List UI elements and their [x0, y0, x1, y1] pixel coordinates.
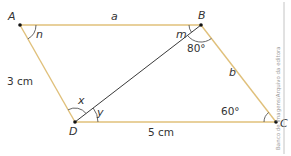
angle-label-x: x: [77, 94, 85, 107]
angle-label-80: 80°: [187, 42, 206, 54]
side-label-ad: 3 cm: [7, 75, 33, 87]
angle-label-60: 60°: [221, 105, 240, 117]
vertex-dot-b: [199, 23, 203, 27]
angle-arc-60: [264, 113, 269, 123]
side-label-dc: 5 cm: [148, 126, 174, 138]
angle-label-n: n: [36, 28, 43, 41]
angle-arc-x: [68, 108, 86, 114]
angle-label-y: y: [96, 106, 104, 119]
angle-arc-m: [189, 25, 192, 32]
angle-arc-n: [28, 25, 36, 39]
vertex-label-d: D: [69, 125, 77, 138]
side-ad: [20, 25, 75, 122]
parallelogram-diagram: A B C D a b 5 cm 3 cm n m 80° 60° x y Ba…: [0, 0, 291, 156]
side-label-b: b: [229, 66, 236, 79]
angle-label-m: m: [176, 28, 187, 41]
vertex-dot-d: [73, 120, 77, 124]
vertex-label-a: A: [7, 10, 16, 23]
vertex-label-b: B: [198, 9, 206, 22]
image-credit: Banco de imagens/Arquivo da editora: [275, 46, 282, 150]
side-label-a: a: [111, 10, 118, 23]
vertex-dot-a: [18, 23, 22, 27]
